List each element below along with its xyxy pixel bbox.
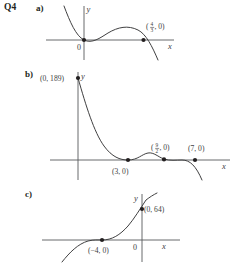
coord-label-a-fraction: ( 4 3 , 0) <box>146 21 165 33</box>
figure-page: Q4 a) 0 x y ( 4 3 , 0) <box>0 0 245 268</box>
figure-part-b: y x y (0, 189) (3, 0) ( 9 2 , 0) (7, 0) <box>40 66 240 184</box>
origin-label-a: 0 <box>77 43 81 52</box>
point-x-intercept-7-b <box>193 158 197 162</box>
coord-x-intercept-7-b: (7, 0) <box>188 144 205 153</box>
curve-a <box>64 6 158 60</box>
y-axis-label-b: y <box>80 71 85 81</box>
point-x-intercept-fraction-b <box>162 157 166 161</box>
x-axis-label-a: x <box>167 41 172 51</box>
part-c-label: c) <box>25 190 32 199</box>
x-axis-label-c: x <box>161 241 166 251</box>
origin-label-c: 0 <box>133 243 137 252</box>
point-x-intercept-a <box>141 38 145 42</box>
y-axis-label-c: y <box>133 193 138 203</box>
point-x-intercept-c <box>100 238 104 242</box>
figure-part-a: 0 x y ( 4 3 , 0) <box>46 2 186 64</box>
question-number: Q4 <box>4 3 16 13</box>
curve-b <box>78 78 202 180</box>
coord-x-intercept-c: (−4, 0) <box>88 246 109 255</box>
coord-b-suffix: , 0) <box>160 143 171 152</box>
part-a-label: a) <box>36 4 44 13</box>
coord-y-intercept-b: (0, 189) <box>40 74 65 83</box>
x-axis-name-b: x <box>221 161 226 171</box>
coord-a-open-paren: ( <box>146 22 149 31</box>
coord-x-intercept-3-b: (3, 0) <box>112 167 129 176</box>
point-x-intercept-3-b <box>126 158 130 162</box>
point-y-intercept-b <box>76 76 80 80</box>
part-b-label: b) <box>25 70 33 79</box>
y-axis-label-a: y <box>86 4 91 14</box>
point-origin-a <box>82 38 86 42</box>
coord-y-intercept-c: (0, 64) <box>144 205 165 214</box>
coord-b-open-paren: ( <box>151 143 154 152</box>
coord-a-suffix: , 0) <box>155 22 166 31</box>
figure-part-c: 0 x y (0, 64) (−4, 0) <box>40 188 210 266</box>
curve-c <box>62 193 157 262</box>
coord-label-b-fraction: ( 9 2 , 0) <box>151 142 170 154</box>
coord-b-denominator: 2 <box>156 148 159 154</box>
coord-a-denominator: 3 <box>151 27 154 33</box>
